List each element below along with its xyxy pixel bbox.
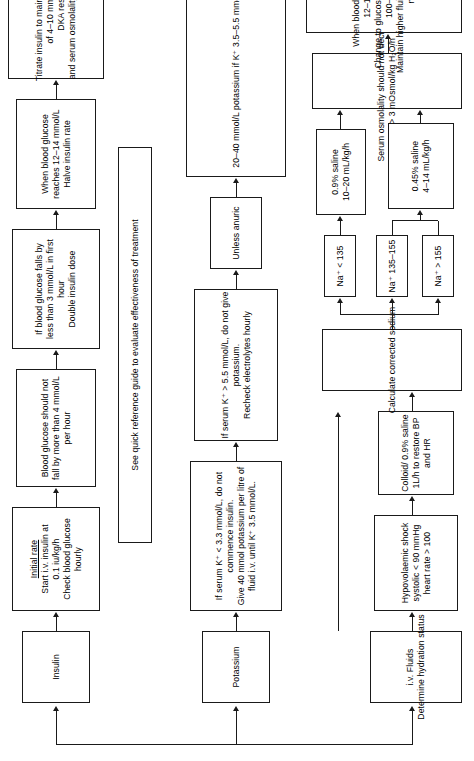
potassium-low-line4: fluid i.v. until K⁺ 3.5 mmol/L. [247, 481, 258, 591]
trunk-arrow-potassium [233, 706, 239, 711]
potassium-high-line2: potassium. [231, 344, 242, 387]
sodium-branch-mid [392, 303, 393, 315]
glucose-switch-line3: Change to glucose saline or 5% glucose [373, 0, 384, 69]
na-high-merge-h [438, 221, 439, 235]
insulin-double-line4: Double insulin dose [67, 251, 78, 328]
insulin-double-dose-box[interactable]: If blood glucose falls by less than 3 mm… [12, 229, 100, 349]
quick-reference-box[interactable]: See quick reference guide to evaluate ef… [118, 147, 152, 543]
insulin-titrate-line4: and serum osmolality < 320 mOsmol/L [67, 0, 78, 79]
sodium-arrow-high [435, 298, 441, 303]
osmolality-out-arrow [385, 34, 391, 39]
shock-line2: systolic < 90 mmHg [411, 524, 422, 601]
fluids-arrow-2 [409, 496, 415, 501]
sodium-fanout-stem [392, 315, 393, 329]
potassium-maintenance-box[interactable]: 20–40 mmol/L potassium if K⁺ 3.5–5.5 mmo… [186, 0, 286, 177]
potassium-conn-2 [236, 447, 237, 461]
saline-045-arrow [417, 210, 423, 215]
fluids-conn-2 [412, 501, 413, 515]
trunk-arrow-fluids [409, 706, 415, 711]
saline-09-out [340, 115, 341, 129]
potassium-low-line2: commence insulin. [225, 500, 236, 573]
insulin-halve-rate-box[interactable]: When blood glucose reaches 12–14 mmol/L … [16, 99, 96, 209]
insulin-conn-3 [56, 355, 57, 369]
insulin-arrow-2 [53, 488, 59, 493]
sodium-branch-low [340, 303, 341, 315]
saline-045-line2: 4–14 mL/kg/h [421, 139, 432, 192]
fluids-header-line2: Determine hydration status [416, 614, 427, 719]
serum-osmolality-box[interactable]: Serum osmolality should not decrease by … [312, 53, 462, 109]
potassium-header-box[interactable]: Potassium [202, 631, 270, 703]
fluids-calculate-sodium-box[interactable]: Calculate corrected sodium [322, 329, 462, 391]
colloid-line1: Colloid/ 0.9% saline [400, 414, 411, 491]
insulin-arrow-3 [53, 350, 59, 355]
fluids-header-box[interactable]: i.v. Fluids Determine hydration status [370, 631, 462, 703]
na-low-arrow [337, 216, 343, 221]
insulin-titrate-line1: Titrate insulin to maintain blood glucos… [34, 0, 45, 81]
saline-09-line2: 10–20 mL/kg/h [341, 143, 352, 201]
insulin-initial-line3: Check blood glucose [62, 518, 73, 600]
glucose-switch-line4: 100–125 mL/h [384, 0, 395, 18]
saline-09-out-arrow [337, 110, 343, 115]
insulin-double-line1: If blood glucose falls by [34, 243, 45, 335]
insulin-fall-line3: per hour [62, 412, 73, 445]
trunk-vertical-line [56, 744, 412, 745]
na-low-conn [340, 221, 341, 235]
potassium-high-line1: If serum K⁺ > 5.5 mmol/L, do not give [220, 292, 231, 439]
flowchart-canvas: Insulin Initial rate Start i.v. insulin … [0, 0, 474, 761]
glucose-switch-line6: normal [406, 0, 417, 3]
colloid-line3: and HR [422, 438, 433, 468]
saline-045-line1: 0.45% saline [410, 141, 421, 191]
insulin-titrate-box[interactable]: Titrate insulin to maintain blood glucos… [8, 0, 104, 79]
fluids-header-line1: i.v. Fluids [405, 649, 416, 686]
potassium-low-box[interactable]: If serum K⁺ < 3.3 mmol/L, do not commenc… [190, 461, 282, 611]
potassium-arrow-1 [233, 612, 239, 617]
shock-line3: heart rate > 100 [422, 532, 433, 595]
na-merge-vertical [392, 220, 438, 221]
trunk-stub-insulin [56, 711, 57, 745]
insulin-halve-line3: Halve insulin rate [62, 120, 73, 188]
glucose-switch-line5: Maintain higher fluid volume until lacta… [395, 0, 406, 73]
insulin-conn-5 [56, 85, 57, 99]
potassium-header-label: Potassium [231, 646, 242, 687]
insulin-fall-rate-box[interactable]: Blood glucose should not fall by more th… [16, 369, 96, 487]
glucose-switch-box[interactable]: When blood glucose reaches 12–14 mmol/L … [306, 0, 462, 33]
na-high-label: Na⁺ > 155 [433, 245, 444, 286]
na-merge-stem [420, 215, 421, 221]
fluids-bypass-arrow [335, 412, 341, 417]
insulin-fall-line1: Blood glucose should not [40, 379, 51, 477]
fluids-bypass-line [338, 417, 339, 631]
potassium-conn-1 [236, 617, 237, 631]
insulin-initial-rate-box[interactable]: Initial rate Start i.v. insulin at 0.1 i… [12, 507, 100, 611]
insulin-halve-line1: When blood glucose [40, 114, 51, 194]
insulin-header-box[interactable]: Insulin [22, 631, 90, 703]
sodium-branch-high [438, 303, 439, 315]
insulin-conn-1 [56, 617, 57, 631]
potassium-anuric-box[interactable]: Unless anuric [210, 197, 262, 269]
saline-09-box[interactable]: 0.9% saline 10–20 mL/kg/h [316, 129, 366, 215]
potassium-high-box[interactable]: If serum K⁺ > 5.5 mmol/L, do not give po… [194, 289, 278, 441]
glucose-switch-line1: When blood glucose reaches [351, 0, 362, 47]
na-high-box[interactable]: Na⁺ > 155 [422, 235, 454, 297]
fluids-colloid-box[interactable]: Colloid/ 0.9% saline 1L/h to restore BP … [378, 411, 454, 495]
insulin-fall-line2: fall by more than 4 mmol/L [51, 376, 62, 480]
na-mid-label: Na⁺ 135–155 [387, 240, 398, 293]
insulin-arrow-4 [53, 210, 59, 215]
potassium-maintenance-label: 20–40 mmol/L potassium if K⁺ 3.5–5.5 mmo… [231, 0, 242, 168]
osmolality-out [388, 39, 389, 53]
na-mid-box[interactable]: Na⁺ 135–155 [376, 235, 408, 297]
potassium-conn-3 [236, 275, 237, 289]
na-low-box[interactable]: Na⁺ < 135 [324, 235, 356, 297]
insulin-initial-line1: Start i.v. insulin at [40, 524, 51, 593]
insulin-arrow-1 [53, 612, 59, 617]
potassium-anuric-label: Unless anuric [231, 206, 242, 259]
insulin-conn-4 [56, 215, 57, 229]
saline-09-line1: 0.9% saline [330, 149, 341, 195]
insulin-halve-line2: reaches 12–14 mmol/L [51, 109, 62, 198]
fluids-arrow-1 [409, 612, 415, 617]
potassium-low-line3: Give 40 mmol potassium per litre of [236, 467, 247, 606]
insulin-titrate-line2: of 4–10 mmol/L until [45, 0, 56, 44]
na-mid-merge-h [392, 221, 393, 235]
insulin-header-label: Insulin [51, 654, 62, 680]
fluids-hypovolaemic-shock-box[interactable]: Hypovolaemic shock systolic < 90 mmHg he… [374, 515, 458, 611]
saline-045-box[interactable]: 0.45% saline 4–14 mL/kg/h [388, 123, 454, 209]
